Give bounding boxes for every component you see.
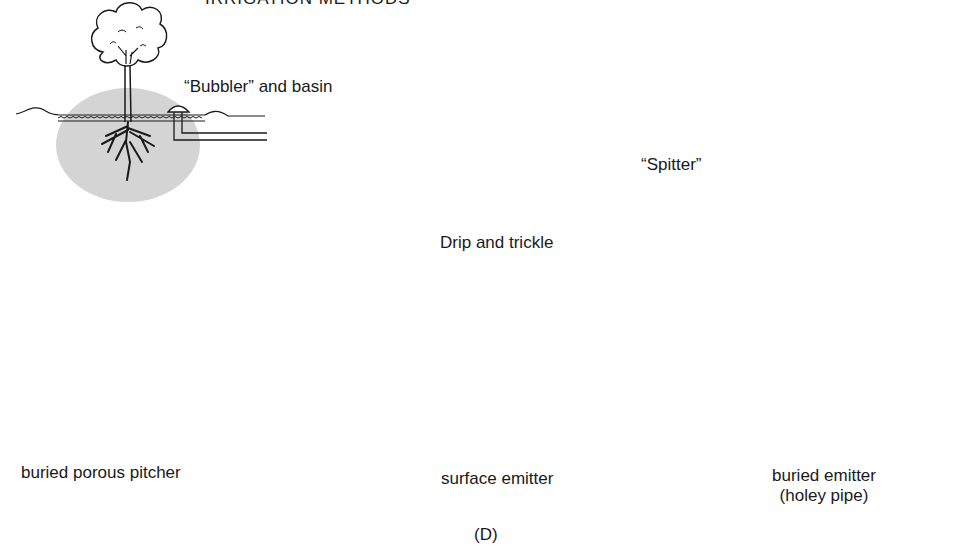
label-drip-and-trickle: Drip and trickle xyxy=(440,233,553,253)
bubbler-and-basin-illustration xyxy=(16,3,267,202)
label-spitter: “Spitter” xyxy=(641,155,701,175)
label-buried-emitter: buried emitter (holey pipe) xyxy=(764,466,884,505)
label-bubbler-and-basin: “Bubbler” and basin xyxy=(184,77,332,97)
soil-wet-zone xyxy=(56,88,200,202)
panel-label: (D) xyxy=(474,525,498,545)
label-surface-emitter: surface emitter xyxy=(441,469,553,489)
label-buried-emitter-line2: (holey pipe) xyxy=(764,486,884,506)
label-buried-porous-pitcher: buried porous pitcher xyxy=(21,463,181,483)
label-buried-emitter-line1: buried emitter xyxy=(764,466,884,486)
